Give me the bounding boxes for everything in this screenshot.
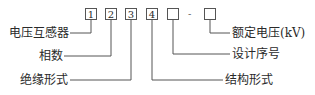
code-box-3: 3 — [125, 8, 137, 20]
code-box-6 — [204, 8, 216, 20]
label-design-serial: 设计序号 — [232, 47, 280, 61]
code-box-5 — [167, 8, 179, 20]
separator-dash: - — [188, 8, 191, 19]
code-box-4: 4 — [146, 8, 158, 20]
label-structure-type: 结构形式 — [225, 73, 273, 87]
code-box-2: 2 — [105, 8, 117, 20]
label-rated-voltage: 额定电压(kV) — [232, 26, 305, 40]
label-insulation-type: 绝缘形式 — [20, 73, 68, 87]
label-phase-count: 相数 — [39, 49, 63, 63]
code-box-1: 1 — [85, 8, 97, 20]
label-voltage-transformer: 电压互感器 — [9, 26, 69, 40]
